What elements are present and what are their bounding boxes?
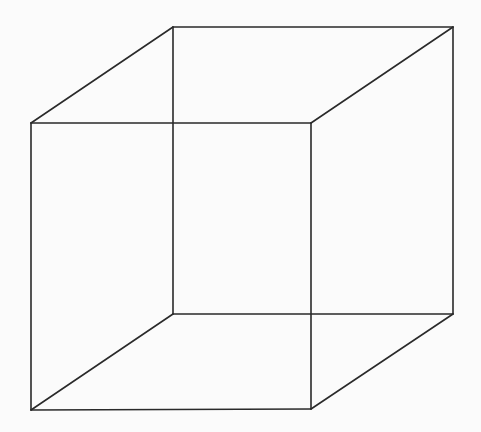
necker-cube-diagram: [0, 0, 481, 432]
edge-front-bottom-right-to-back-bottom-right: [311, 314, 453, 409]
edge-front-top-left-to-back-top-left: [31, 27, 173, 123]
edge-front-bottom-right-to-front-bottom-left: [31, 409, 311, 410]
edge-front-bottom-left-to-back-bottom-left: [31, 314, 173, 410]
cube-edges: [31, 27, 453, 410]
edge-front-top-right-to-back-top-right: [311, 27, 453, 123]
